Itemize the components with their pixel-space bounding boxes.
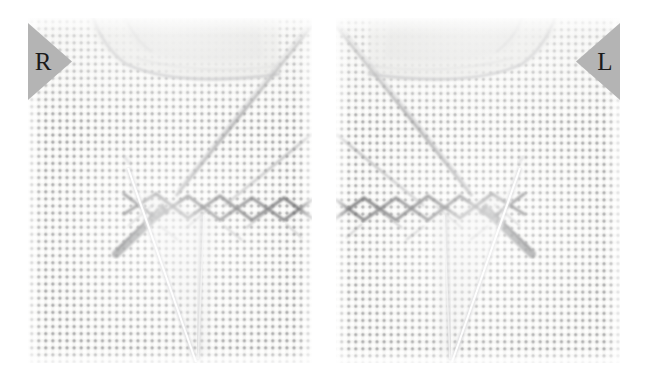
radiograph-panel-right[interactable]: R [28,18,312,363]
wire-penumbra [434,188,508,358]
wire-penumbra [140,188,214,358]
diagonal-radiodense-band-lower [224,134,312,206]
laterality-marker-left: L [576,23,620,100]
laterality-marker-right: R [28,23,72,100]
soft-tissue-shading [368,18,560,80]
radiograph-pair: R [0,0,647,384]
radiograph-panel-left[interactable]: L [336,18,620,363]
laterality-label: R [35,49,52,74]
diagonal-radiodense-band-lower [336,134,424,206]
laterality-label: L [597,49,612,74]
soft-tissue-shading [88,18,280,80]
